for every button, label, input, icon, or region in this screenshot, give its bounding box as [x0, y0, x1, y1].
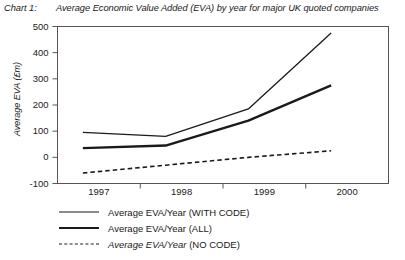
legend-label: Average EVA/Year (NO CODE)	[108, 239, 240, 250]
chart-legend: Average EVA/Year (WITH CODE)Average EVA/…	[57, 204, 387, 252]
legend-item: Average EVA/Year (WITH CODE)	[57, 204, 387, 220]
legend-label: Average EVA/Year (ALL)	[108, 223, 212, 234]
axis-tick-marks	[53, 27, 306, 189]
series-line	[83, 151, 331, 173]
legend-item: Average EVA/Year (NO CODE)	[57, 236, 387, 252]
legend-item: Average EVA/Year (ALL)	[57, 220, 387, 236]
legend-swatch-thin	[57, 207, 101, 217]
axis-frame	[58, 27, 389, 184]
data-series-group	[83, 33, 331, 173]
series-line	[83, 85, 331, 148]
legend-swatch-dash	[57, 239, 101, 249]
legend-swatch-thick	[57, 223, 101, 233]
series-line	[83, 33, 331, 136]
chart-figure: Chart 1:Average Economic Value Added (EV…	[0, 0, 405, 260]
legend-label: Average EVA/Year (WITH CODE)	[108, 207, 249, 218]
